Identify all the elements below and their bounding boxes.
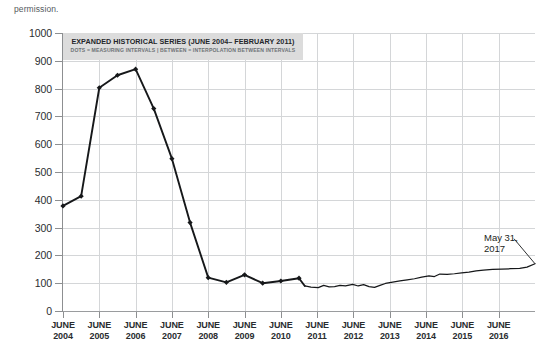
y-axis-tick	[55, 61, 62, 62]
annotation-line-2: 2017	[484, 243, 518, 254]
endpoint-annotation: May 31, 2017	[484, 232, 518, 254]
y-axis-tick	[55, 228, 62, 229]
x-axis-tick	[353, 312, 354, 318]
y-axis-tick	[55, 255, 62, 256]
x-axis-tick	[208, 312, 209, 318]
x-axis-tick	[499, 312, 500, 318]
x-axis-tick	[136, 312, 137, 318]
x-axis-tick	[317, 312, 318, 318]
chart-figure: 01002003004005006007008009001000 EXPANDE…	[0, 18, 558, 352]
y-axis-tick	[55, 283, 62, 284]
x-axis-tick-label: JUNE2016	[469, 320, 529, 341]
y-axis-tick	[55, 311, 62, 312]
y-axis-tick	[55, 172, 62, 173]
annotation-line-1: May 31,	[484, 232, 518, 243]
y-axis-tick	[55, 33, 62, 34]
y-axis-tick	[55, 200, 62, 201]
x-axis-tick	[281, 312, 282, 318]
x-axis-tick	[245, 312, 246, 318]
x-axis-tick	[426, 312, 427, 318]
x-axis-tick	[390, 312, 391, 318]
page-text-fragment: permission.	[14, 4, 59, 14]
y-axis-tick	[55, 89, 62, 90]
x-axis-tick	[462, 312, 463, 318]
y-axis-tick	[55, 116, 62, 117]
y-axis-tick	[55, 144, 62, 145]
x-axis-tick	[172, 312, 173, 318]
x-axis-tick	[63, 312, 64, 318]
x-axis-tick	[99, 312, 100, 318]
annotation-leader-layer	[0, 18, 558, 352]
